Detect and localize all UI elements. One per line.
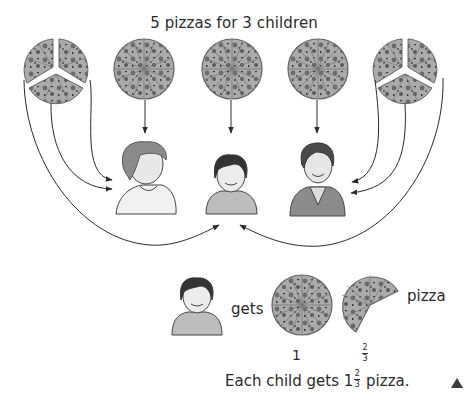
pizza-5-cut-thirds (373, 39, 437, 104)
child-left (116, 142, 176, 214)
pizza-1-cut-thirds (24, 39, 88, 104)
two-thirds-pizza-result (342, 275, 398, 332)
child-middle-result (172, 278, 222, 335)
fraction-two-thirds-label: 2 3 (362, 344, 368, 363)
pizza-distribution-diagram (0, 0, 468, 394)
gets-label: gets (231, 300, 263, 318)
caption-fraction-numerator: 2 (355, 370, 360, 378)
pizza-unit-label: pizza (407, 287, 446, 305)
fraction-numerator: 2 (362, 344, 367, 352)
caption-fraction: 2 3 (354, 370, 360, 389)
whole-count-label: 1 (292, 347, 301, 363)
fraction-denominator: 3 (362, 355, 367, 363)
caption-fraction-denominator: 3 (355, 381, 360, 389)
pizza-2-whole (114, 39, 174, 99)
whole-pizza-result (272, 275, 332, 335)
pizza-3-whole (202, 39, 262, 99)
caption: Each child gets 1 2 3 pizza. (225, 372, 410, 391)
caption-prefix: Each child gets 1 (225, 372, 353, 390)
caption-suffix: pizza. (361, 372, 409, 390)
child-middle (206, 155, 257, 214)
pizza-4-whole (288, 39, 348, 99)
child-right (290, 143, 345, 216)
end-marker-triangle-icon (451, 378, 463, 388)
